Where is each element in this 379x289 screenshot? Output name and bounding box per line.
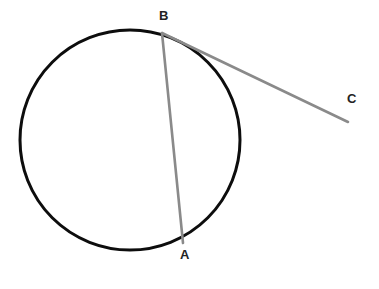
point-label-a: A (180, 248, 189, 261)
geometry-canvas (0, 0, 379, 289)
point-label-c: C (347, 92, 356, 105)
tangent-bc-line (162, 33, 348, 122)
circle-shape (20, 30, 240, 250)
geometry-diagram: B A C (0, 0, 379, 289)
chord-ba-line (162, 33, 183, 243)
point-label-b: B (159, 9, 168, 22)
